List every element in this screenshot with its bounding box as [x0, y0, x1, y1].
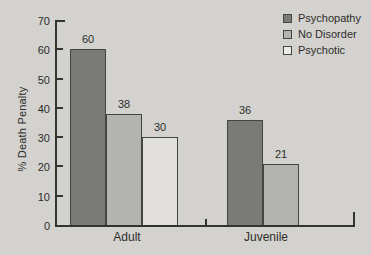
y-tick	[57, 195, 63, 197]
legend-label: Psychotic	[298, 44, 345, 56]
legend-label: Psychopathy	[298, 12, 361, 24]
y-tick-label: 0	[26, 220, 50, 232]
legend-swatch-no-disorder	[283, 30, 292, 39]
y-tick	[57, 78, 63, 80]
y-tick-label: 50	[26, 74, 50, 86]
x-axis-mid-tick	[205, 219, 207, 225]
bar-adult-psychotic	[142, 137, 178, 225]
bar-adult-no-disorder	[106, 114, 142, 225]
legend-swatch-psychotic	[283, 46, 292, 55]
y-tick-label: 10	[26, 191, 50, 203]
legend-item-no-disorder: No Disorder	[283, 29, 361, 39]
bar-value-label: 36	[239, 104, 251, 116]
legend-swatch-psychopathy	[283, 14, 292, 23]
bar-value-label: 30	[154, 121, 166, 133]
legend-label: No Disorder	[298, 28, 357, 40]
y-tick	[57, 107, 63, 109]
y-tick-label: 40	[26, 103, 50, 115]
x-axis-end-cap	[353, 212, 355, 227]
bar-value-label: 60	[82, 33, 94, 45]
figure: % Death Penalty 010203040506070603830Adu…	[0, 0, 371, 255]
bar-juvenile-psychopathy	[227, 120, 263, 225]
bar-value-label: 38	[118, 98, 130, 110]
y-tick	[57, 136, 63, 138]
y-axis-title: % Death Penalty	[16, 87, 28, 172]
bar-adult-psychopathy	[70, 49, 106, 225]
y-tick	[57, 48, 63, 50]
y-tick-label: 60	[26, 44, 50, 56]
legend-item-psychotic: Psychotic	[283, 45, 361, 55]
bar-value-label: 21	[275, 148, 287, 160]
x-category-label-adult: Adult	[113, 230, 140, 244]
y-tick	[57, 165, 63, 167]
y-axis-top-cap	[57, 20, 65, 22]
x-category-label-juvenile: Juvenile	[244, 230, 288, 244]
legend: PsychopathyNo DisorderPsychotic	[283, 13, 361, 61]
y-tick-label: 30	[26, 132, 50, 144]
x-axis-line	[55, 225, 355, 227]
y-tick-label: 20	[26, 161, 50, 173]
y-tick-label: 70	[26, 15, 50, 27]
bar-juvenile-no-disorder	[263, 164, 299, 226]
legend-item-psychopathy: Psychopathy	[283, 13, 361, 23]
